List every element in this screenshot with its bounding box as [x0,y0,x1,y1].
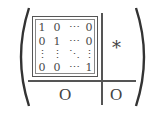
left-parenthesis [16,6,32,108]
entry-3-1: ⋮ [35,49,49,60]
entry-3-4: ⋮ [82,49,96,60]
entry-2-2: 1 [50,36,64,47]
entry-3-2: ⋮ [50,49,64,60]
entry-4-4: 1 [82,62,96,73]
entry-1-2: 0 [50,22,64,33]
right-parenthesis [133,6,149,108]
entry-2-3: ⋯ [67,36,81,47]
entry-4-2: 0 [50,62,64,73]
entry-2-4: 0 [82,36,96,47]
bottom-left-zero-block: O [59,86,71,103]
horizontal-divider [28,80,136,82]
bottom-right-zero-block: O [110,86,122,103]
entry-1-1: 1 [35,22,49,33]
entry-4-1: 0 [35,62,49,73]
entry-3-3: ⋱ [67,49,81,60]
identity-block: 1 0 ⋯ 0 0 1 ⋯ 0 ⋮ ⋮ ⋱ ⋮ 0 0 ⋯ 1 [32,16,98,77]
entry-1-3: ⋯ [67,22,81,33]
vertical-divider [101,13,103,105]
entry-1-4: 0 [82,22,96,33]
entry-4-3: ⋯ [67,62,81,73]
top-right-block: * [112,37,121,58]
entry-2-1: 0 [35,36,49,47]
